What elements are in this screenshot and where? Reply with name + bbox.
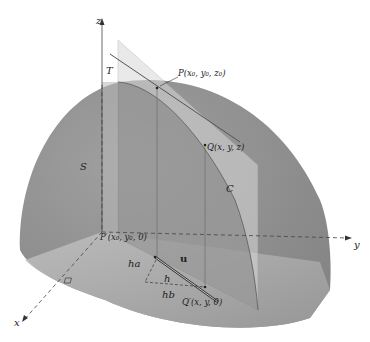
directional-derivative-diagram: z y x T S C P(x₀, y₀, z₀) Q(x, y, z) P′(… xyxy=(0,0,370,342)
point-q-label: Q(x, y, z) xyxy=(207,142,244,152)
vector-u-label: u xyxy=(180,253,187,264)
point-p-prime xyxy=(154,256,157,259)
plane-label-t: T xyxy=(106,65,114,76)
x-axis-label: x xyxy=(14,317,20,328)
y-arrow-icon xyxy=(345,236,352,241)
seg-ha-label: ha xyxy=(128,258,140,269)
point-p-label: P(x₀, y₀, z₀) xyxy=(177,68,225,78)
point-q xyxy=(204,144,207,147)
seg-hb-label: hb xyxy=(162,289,175,300)
back-wall xyxy=(102,82,118,244)
point-p xyxy=(156,87,159,90)
seg-h-label: h xyxy=(164,273,170,284)
point-p-prime-label: P′(x₀, y₀, 0) xyxy=(99,232,147,242)
point-q-prime xyxy=(204,286,207,289)
point-q-prime-label: Q′(x, y, 0) xyxy=(182,297,222,307)
surface-label-s: S xyxy=(80,161,87,172)
z-axis-label: z xyxy=(95,15,102,26)
curve-label-c: C xyxy=(226,183,234,194)
y-axis-label: y xyxy=(353,239,360,250)
